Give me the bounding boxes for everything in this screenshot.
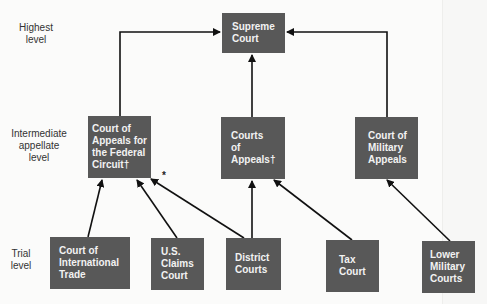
box-line: Court [232, 33, 279, 45]
box-line: Military [368, 142, 412, 154]
box-line: District [235, 252, 275, 264]
footnote-asterisk: * [162, 170, 166, 181]
box-line: Courts [231, 130, 279, 142]
lower-military-courts-box: Lower Military Courts [422, 241, 475, 293]
level-label-intermediate: Intermediate appellate level [6, 128, 72, 164]
district-courts-box: District Courts [226, 238, 281, 290]
box-line: Court of [92, 123, 145, 135]
box-line: Court of [368, 130, 412, 142]
box-line: Courts [235, 264, 275, 276]
box-line: Court [161, 270, 198, 282]
box-line: of [231, 142, 279, 154]
box-line: Appeals [368, 154, 412, 166]
box-line: Circuit† [92, 159, 145, 171]
box-line: Courts [430, 273, 469, 285]
box-line: Lower [430, 249, 469, 261]
box-line: Supreme [232, 21, 279, 33]
supreme-court-box: Supreme Court [222, 13, 285, 53]
box-line: Tax [339, 254, 373, 266]
level-label-highest: Highest level [12, 22, 60, 46]
box-line: the Federal [92, 147, 145, 159]
federal-circuit-box: Court of Appeals for the Federal Circuit… [88, 116, 151, 178]
courts-of-appeals-box: Courts of Appeals† [221, 117, 285, 179]
international-trade-box: Court of International Trade [50, 237, 130, 289]
claims-court-box: U.S. Claims Court [151, 238, 204, 290]
box-line: Trade [59, 269, 124, 281]
box-line: Claims [161, 258, 198, 270]
military-appeals-box: Court of Military Appeals [355, 117, 418, 179]
level-label-trial: Trial level [6, 248, 36, 272]
box-line: Appeals for [92, 135, 145, 147]
box-line: Military [430, 261, 469, 273]
tax-court-box: Tax Court [326, 240, 379, 292]
box-line: International [59, 257, 124, 269]
box-line: Court [339, 266, 373, 278]
box-line: Appeals† [231, 154, 279, 166]
box-line: Court of [59, 245, 124, 257]
box-line: U.S. [161, 246, 198, 258]
